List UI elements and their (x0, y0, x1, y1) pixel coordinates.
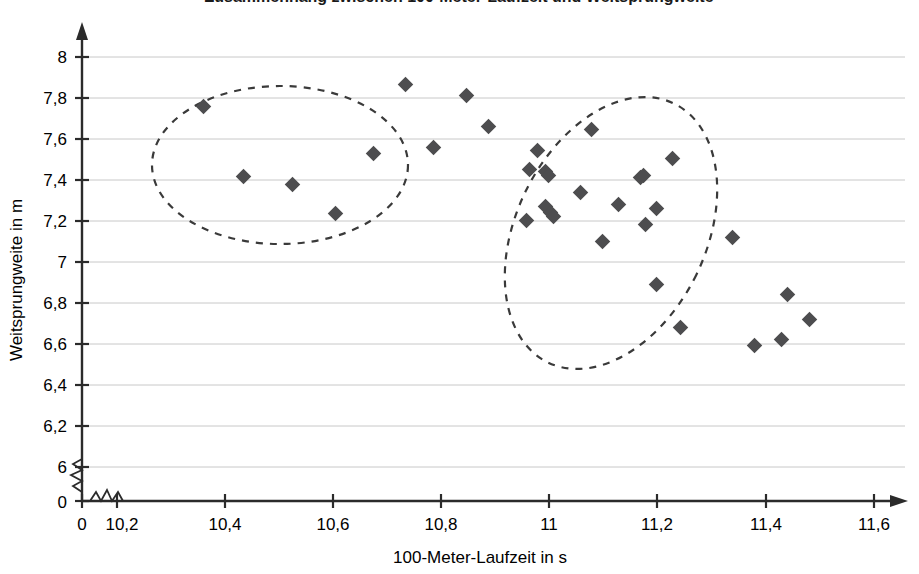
data-points (196, 77, 818, 354)
y-axis (71, 22, 89, 501)
data-point (398, 77, 414, 93)
chart-title: Zusammenhang zwischen 100-Meter-Laufzeit… (204, 0, 713, 5)
data-point (611, 197, 627, 213)
y-tick-label-8: 8 (58, 48, 67, 67)
data-point (649, 201, 665, 217)
data-point (725, 230, 741, 246)
data-point (530, 143, 546, 159)
y-tick-label-7-4: 7,4 (43, 171, 67, 190)
data-point (638, 217, 654, 233)
y-tick-label-6: 6 (58, 458, 67, 477)
x-tick-label-11: 11 (540, 515, 558, 534)
data-point (285, 177, 301, 193)
data-point (236, 169, 252, 185)
data-point (774, 332, 790, 348)
data-point (459, 88, 475, 104)
data-point (481, 119, 497, 135)
data-point (747, 338, 763, 354)
gridlines (82, 57, 905, 467)
y-axis-title: Weitsprungweite in m (7, 199, 26, 361)
data-point (519, 213, 535, 229)
data-point (802, 312, 818, 328)
x-axis-title: 100-Meter-Laufzeit in s (393, 548, 567, 567)
cluster-annotations (152, 62, 760, 404)
y-tick-label-7-8: 7,8 (43, 89, 67, 108)
x-tick-label-10-4: 10,4 (208, 515, 241, 534)
data-point (780, 287, 796, 303)
data-point (584, 122, 600, 138)
x-tick-label-10-6: 10,6 (316, 515, 349, 534)
x-tick-label-0: 0 (77, 515, 86, 534)
x-axis (82, 490, 908, 508)
y-axis-break-icon (71, 459, 82, 492)
scatter-chart: Zusammenhang zwischen 100-Meter-Laufzeit… (0, 0, 919, 574)
y-tick-label-6-8: 6,8 (43, 294, 67, 313)
data-point (595, 234, 611, 250)
left-cluster-ellipse (152, 86, 408, 244)
chart-screen: Zusammenhang zwischen 100-Meter-Laufzeit… (0, 0, 919, 574)
data-point (573, 185, 589, 201)
data-point (366, 146, 382, 162)
data-point (673, 320, 689, 336)
y-tick-label-7: 7 (58, 253, 67, 272)
data-point (196, 99, 212, 115)
x-tick-labels: 0 10,2 10,4 10,6 10,8 11 11,2 11,4 11,6 (77, 515, 890, 534)
right-cluster-ellipse (462, 62, 759, 404)
x-tick-label-10-2: 10,2 (105, 515, 138, 534)
x-tick-label-11-6: 11,6 (858, 515, 890, 534)
data-point (328, 206, 344, 222)
x-tick-label-10-8: 10,8 (424, 515, 457, 534)
y-tick-labels: 8 7,8 7,6 7,4 7,2 7 6,8 6,6 6,4 6,2 6 0 (43, 48, 67, 512)
x-axis-arrow (890, 495, 908, 507)
data-point (649, 277, 665, 293)
x-tick-label-11-4: 11,4 (750, 515, 782, 534)
y-tick-label-7-2: 7,2 (43, 212, 67, 231)
y-axis-arrow (76, 22, 88, 40)
y-tick-label-6-2: 6,2 (43, 417, 67, 436)
y-tick-label-0: 0 (58, 493, 67, 512)
y-tick-label-6-4: 6,4 (43, 376, 67, 395)
data-point (665, 151, 681, 167)
data-point (426, 140, 442, 156)
y-tick-label-6-6: 6,6 (43, 335, 67, 354)
y-tick-label-7-6: 7,6 (43, 130, 67, 149)
x-tick-label-11-2: 11,2 (641, 515, 673, 534)
